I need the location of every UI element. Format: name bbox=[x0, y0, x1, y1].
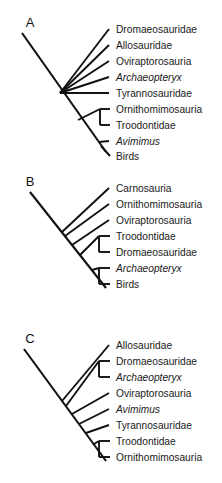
panel-a-label-archaeopteryx: Archaeopteryx bbox=[115, 72, 183, 83]
panel-letter-b: B bbox=[26, 174, 35, 189]
panel-a-branch-avimimus bbox=[99, 141, 109, 142]
panel-c-label-allosauridae: Allosauridae bbox=[116, 340, 172, 351]
panel-b-label-carnosauria: Carnosauria bbox=[116, 183, 172, 194]
panel-c-label-dromaeosauridae: Dromaeosauridae bbox=[116, 356, 197, 367]
cladogram-figure: A Dromaeosauridae Allosauridae Oviraptor… bbox=[0, 0, 222, 483]
panel-letter-c: C bbox=[25, 331, 34, 346]
panel-b-label-oviraptorosauria: Oviraptorosauria bbox=[116, 215, 192, 226]
panel-b-label-troodontidae: Troodontidae bbox=[116, 231, 176, 242]
panel-a-label-tyrannosauridae: Tyrannosauridae bbox=[116, 88, 192, 99]
panel-b-label-birds: Birds bbox=[116, 279, 139, 290]
panel-c-label-archaeopteryx: Archaeopteryx bbox=[115, 372, 183, 383]
panel-a-label-oviraptorosauria: Oviraptorosauria bbox=[116, 56, 192, 67]
panel-c-label-tyrannosauridae: Tyrannosauridae bbox=[116, 420, 192, 431]
panel-a-label-troodontidae: Troodontidae bbox=[116, 120, 176, 131]
panel-c-label-troodontidae: Troodontidae bbox=[116, 436, 176, 447]
figure-background bbox=[0, 0, 222, 483]
panel-c-label-ornithomimosauria: Ornithomimosauria bbox=[116, 452, 202, 463]
panel-a-label-birds: Birds bbox=[116, 151, 139, 162]
panel-b-label-archaeopteryx: Archaeopteryx bbox=[115, 263, 183, 274]
panel-c-label-oviraptorosauria: Oviraptorosauria bbox=[116, 388, 192, 399]
panel-a-label-ornithomimosauria: Ornithomimosauria bbox=[116, 104, 202, 115]
panel-b-label-dromaeosauridae: Dromaeosauridae bbox=[116, 247, 197, 258]
panel-a-label-avimimus: Avimimus bbox=[115, 136, 160, 147]
panel-a-label-allosauridae: Allosauridae bbox=[116, 40, 172, 51]
panel-b-label-ornithomimosauria: Ornithomimosauria bbox=[116, 199, 202, 210]
panel-letter-a: A bbox=[26, 15, 35, 30]
panel-c-label-avimimus: Avimimus bbox=[115, 404, 160, 415]
panel-a-label-dromaeosauridae: Dromaeosauridae bbox=[116, 24, 197, 35]
